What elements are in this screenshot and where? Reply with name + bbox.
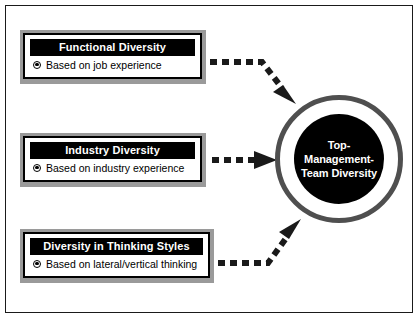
radio-filled-icon [33, 61, 41, 69]
driver-bullet-text-functional-diversity: Based on job experience [46, 59, 162, 71]
driver-header-functional-diversity: Functional Diversity [30, 39, 195, 56]
driver-box-functional-diversity[interactable]: Functional Diversity Based on job experi… [20, 30, 206, 84]
driver-header-thinking-styles: Diversity in Thinking Styles [30, 238, 203, 255]
center-node-tmt-diversity[interactable]: Top-Management- Team Diversity [275, 95, 403, 223]
driver-bullet-row: Based on job experience [30, 57, 195, 72]
center-node-label: Top-Management- Team Diversity [294, 138, 384, 180]
driver-bullet-row: Based on lateral/vertical thinking [30, 256, 203, 271]
center-node-disc: Top-Management- Team Diversity [294, 114, 384, 204]
radio-filled-icon [33, 164, 41, 172]
driver-header-industry-diversity: Industry Diversity [30, 142, 195, 159]
radio-filled-icon [33, 260, 41, 268]
driver-bullet-row: Based on industry experience [30, 160, 195, 175]
driver-box-thinking-styles[interactable]: Diversity in Thinking Styles Based on la… [20, 229, 214, 283]
driver-bullet-text-industry-diversity: Based on industry experience [46, 162, 184, 174]
driver-box-inner: Industry Diversity Based on industry exp… [23, 136, 202, 182]
driver-box-industry-diversity[interactable]: Industry Diversity Based on industry exp… [20, 133, 206, 187]
driver-bullet-text-thinking-styles: Based on lateral/vertical thinking [46, 258, 197, 270]
diagram-canvas: Functional Diversity Based on job experi… [0, 0, 420, 320]
driver-box-inner: Diversity in Thinking Styles Based on la… [23, 232, 210, 278]
driver-box-inner: Functional Diversity Based on job experi… [23, 33, 202, 79]
